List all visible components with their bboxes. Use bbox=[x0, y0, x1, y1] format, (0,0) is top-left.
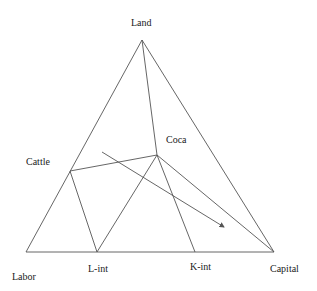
line-coca-kint bbox=[157, 155, 195, 252]
label-capital: Capital bbox=[270, 263, 299, 274]
line-land-coca bbox=[142, 40, 157, 155]
edge-labor-land bbox=[26, 40, 142, 252]
label-k-int: K-int bbox=[190, 261, 211, 272]
label-labor: Labor bbox=[12, 271, 37, 282]
line-lint-coca bbox=[97, 155, 157, 252]
edge-land-capital bbox=[142, 40, 274, 252]
trajectory-arrow bbox=[102, 152, 224, 227]
ternary-diagram: Land Cattle Coca Labor L-int K-int Capit… bbox=[0, 0, 317, 291]
line-coca-capital bbox=[157, 155, 274, 252]
label-coca: Coca bbox=[166, 134, 187, 145]
label-l-int: L-int bbox=[88, 263, 108, 274]
label-land: Land bbox=[131, 17, 152, 28]
label-cattle: Cattle bbox=[26, 156, 50, 167]
line-cattle-lint bbox=[70, 171, 97, 252]
line-cattle-coca bbox=[70, 155, 157, 171]
diagram-svg: Land Cattle Coca Labor L-int K-int Capit… bbox=[0, 0, 317, 291]
